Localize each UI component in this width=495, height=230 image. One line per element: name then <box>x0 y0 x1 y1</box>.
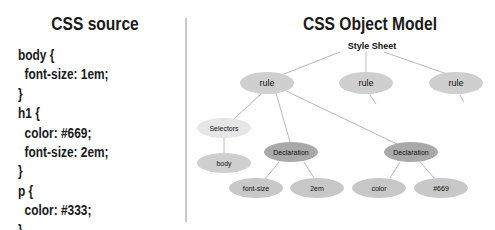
node-rule-1: rule <box>240 72 294 94</box>
svg-text:Declaration: Declaration <box>393 149 429 156</box>
node-decl2-value: #669 <box>414 178 468 198</box>
tree-edges <box>224 52 464 179</box>
svg-text:body: body <box>216 160 232 168</box>
cssom-tree-diagram: Style Sheet rule rule rule Selectors bod… <box>0 0 495 230</box>
svg-text:rule: rule <box>259 78 274 88</box>
node-declaration-2: Declaration <box>384 142 438 162</box>
node-decl1-property: font-size <box>229 178 283 198</box>
svg-text:Selectors: Selectors <box>209 125 239 132</box>
svg-text:color: color <box>371 185 387 192</box>
svg-text:rule: rule <box>448 78 463 88</box>
node-declaration-1: Declaration <box>264 142 318 162</box>
node-rule-3: rule <box>429 72 483 94</box>
svg-text:2em: 2em <box>310 185 324 192</box>
node-decl1-value: 2em <box>290 178 344 198</box>
node-selector-body: body <box>197 153 251 173</box>
svg-text:#669: #669 <box>433 185 449 192</box>
svg-text:font-size: font-size <box>243 185 270 192</box>
node-decl2-property: color <box>352 178 406 198</box>
svg-text:Declaration: Declaration <box>273 149 309 156</box>
root-node-label: Style Sheet <box>348 41 397 51</box>
node-rule-2: rule <box>339 72 393 94</box>
node-selectors: Selectors <box>197 118 251 138</box>
svg-text:rule: rule <box>358 78 373 88</box>
